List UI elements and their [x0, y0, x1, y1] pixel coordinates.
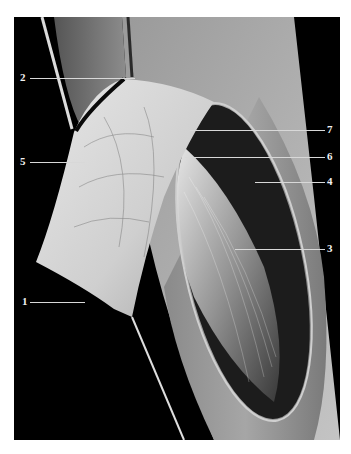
label-6: 6 — [327, 151, 333, 162]
label-7: 7 — [327, 124, 333, 135]
leader-line-7 — [190, 130, 325, 131]
leader-line-2 — [30, 78, 135, 79]
dissection-photo — [14, 17, 340, 440]
label-4: 4 — [327, 176, 333, 187]
leader-line-1 — [30, 302, 85, 303]
leader-line-6 — [185, 157, 325, 158]
label-3: 3 — [327, 243, 333, 254]
figure-frame: 1 2 3 4 5 6 7 — [14, 17, 340, 440]
label-1: 1 — [22, 296, 28, 307]
label-5: 5 — [20, 156, 26, 167]
label-2: 2 — [20, 72, 26, 83]
leader-line-3 — [235, 249, 325, 250]
leader-line-4 — [255, 182, 325, 183]
leader-line-5 — [30, 162, 85, 163]
